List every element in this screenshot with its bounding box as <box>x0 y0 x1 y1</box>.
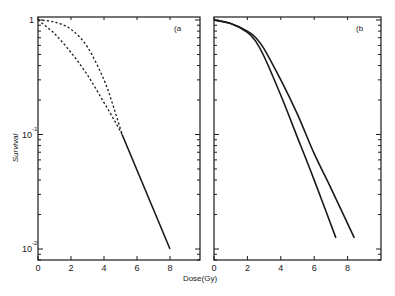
y-tick-label-10e-2: 10 -2 <box>22 240 38 254</box>
svg-text:10: 10 <box>22 244 32 254</box>
x-tick-label: 8 <box>167 263 172 273</box>
series-line <box>214 20 336 238</box>
x-tick-label: 6 <box>312 263 317 273</box>
x-tick-label: 6 <box>134 263 139 273</box>
panel-b-label: (b <box>356 24 364 33</box>
y-tick-label-1: 1 <box>29 15 34 25</box>
x-tick-label: 4 <box>101 263 106 273</box>
series-line <box>38 20 122 135</box>
panel-a-frame <box>38 17 200 260</box>
figure: 02468 (a 1 10 -1 10 -2 Survival 02468 (b… <box>0 0 395 296</box>
x-tick-label: 0 <box>35 263 40 273</box>
series-line <box>214 20 354 238</box>
panel-a-series <box>38 20 170 249</box>
panel-b-x-ticks: 02468 <box>211 17 350 273</box>
x-tick-label: 0 <box>211 263 216 273</box>
svg-text:-1: -1 <box>32 126 38 132</box>
y-axis-title: Survival <box>11 134 20 163</box>
panel-a-y-ticks <box>38 20 200 260</box>
series-line <box>38 20 122 135</box>
svg-text:-2: -2 <box>32 240 38 246</box>
x-axis-title: Dose(Gy) <box>183 274 218 283</box>
x-tick-label: 4 <box>278 263 283 273</box>
x-tick-label: 2 <box>245 263 250 273</box>
panel-a-x-ticks: 02468 <box>35 17 172 273</box>
svg-text:10: 10 <box>22 130 32 140</box>
x-tick-label: 8 <box>345 263 350 273</box>
panel-b: 02468 (b <box>211 17 381 273</box>
y-tick-label-10e-1: 10 -1 <box>22 126 38 140</box>
panel-b-series <box>214 20 354 238</box>
panel-b-y-ticks <box>214 20 381 260</box>
panel-a: 02468 (a 1 10 -1 10 -2 Survival <box>11 15 200 273</box>
series-line <box>122 135 170 250</box>
panel-a-label: (a <box>174 24 182 33</box>
x-tick-label: 2 <box>68 263 73 273</box>
